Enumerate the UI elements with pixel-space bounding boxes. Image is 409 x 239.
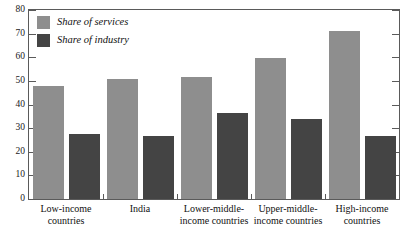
x-category-label-line2: income countries (251, 215, 325, 227)
bar-industry (365, 136, 396, 199)
legend-swatch-icon (37, 16, 50, 29)
y-tick-label-80: 80 (1, 5, 25, 15)
chart-legend: Share of servicesShare of industry (37, 16, 129, 52)
x-category-label-line1: India (130, 203, 151, 214)
legend-item: Share of industry (37, 34, 129, 47)
bar-chart: 80706050403020100 Share of servicesShare… (0, 0, 409, 239)
bar-industry (217, 113, 248, 199)
x-axis-category-labels: Low-incomecountriesIndiaLower-middle-inc… (29, 203, 399, 237)
x-category-label-line2: countries (29, 215, 103, 227)
bar-industry (69, 134, 100, 199)
x-category-label-line2: countries (325, 215, 399, 227)
x-category-label-line1: Lower-middle- (184, 203, 244, 214)
x-category-label: High-incomecountries (325, 203, 399, 227)
bar-services (107, 79, 138, 199)
y-tick-label-10: 10 (1, 170, 25, 180)
y-tick-label-20: 20 (1, 147, 25, 157)
bar-services (181, 77, 212, 199)
bar-group (325, 10, 399, 199)
bar-services (33, 86, 64, 199)
legend-item: Share of services (37, 16, 129, 29)
x-category-label: India (103, 203, 177, 215)
x-category-label-line2: income countries (177, 215, 251, 227)
bar-services (255, 58, 286, 199)
bar-industry (291, 119, 322, 199)
legend-swatch-icon (37, 34, 50, 47)
y-tick-label-40: 40 (1, 100, 25, 110)
y-tick-label-60: 60 (1, 52, 25, 62)
y-tick-label-30: 30 (1, 123, 25, 133)
x-category-label: Upper-middle-income countries (251, 203, 325, 227)
y-tick-label-50: 50 (1, 76, 25, 86)
bar-group (177, 10, 251, 199)
legend-label: Share of services (57, 17, 128, 28)
bar-group (251, 10, 325, 199)
x-category-label: Low-incomecountries (29, 203, 103, 227)
y-tick-label-70: 70 (1, 29, 25, 39)
bar-industry (143, 136, 174, 199)
x-category-label-line1: Low-income (40, 203, 91, 214)
y-tick-label-0: 0 (1, 194, 25, 204)
x-category-label: Lower-middle-income countries (177, 203, 251, 227)
x-category-label-line1: High-income (336, 203, 389, 214)
x-category-label-line1: Upper-middle- (258, 203, 317, 214)
legend-label: Share of industry (57, 35, 129, 46)
bar-services (329, 31, 360, 199)
